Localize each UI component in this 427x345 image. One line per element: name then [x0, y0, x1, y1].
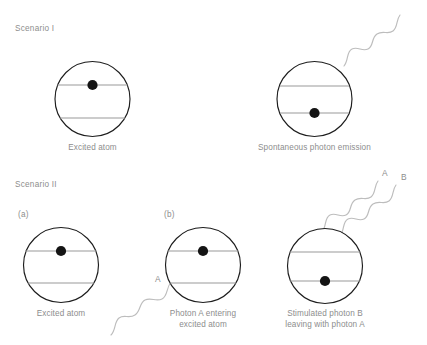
- electron-dot: [198, 246, 208, 256]
- scenario-1-panel-1: Excited atom: [55, 62, 130, 153]
- atom-circle: [55, 62, 130, 137]
- figure-canvas: Scenario I Excited atom Spontaneous phot…: [0, 0, 427, 345]
- panel-caption-line-1: Photon A entering: [170, 309, 237, 318]
- scenario-2-panel-b: (b) A Photon A entering excited atom: [111, 210, 241, 335]
- photon-b-label: B: [401, 172, 407, 182]
- panel-caption-line-1: Stimulated photon B: [287, 309, 363, 318]
- scenario-2-panel-c: A B Stimulated photon B leaving with pho…: [285, 168, 407, 329]
- stimulated-emission-diagram: Scenario I Excited atom Spontaneous phot…: [0, 0, 427, 345]
- atom-circle: [24, 228, 99, 303]
- photon-a-label: A: [155, 274, 161, 284]
- photon-wave-icon: [340, 185, 396, 236]
- photon-wave-icon: [111, 282, 171, 335]
- panel-caption: Excited atom: [37, 309, 86, 318]
- electron-dot: [87, 80, 97, 90]
- panel-letter-b: (b): [164, 210, 175, 219]
- photon-wave-icon: [344, 15, 400, 66]
- electron-dot: [56, 246, 66, 256]
- photon-a-label: A: [382, 168, 388, 178]
- panel-caption: Excited atom: [68, 143, 117, 152]
- scenario-1-heading: Scenario I: [15, 24, 54, 33]
- scenario-2-panel-a: (a) Excited atom: [18, 210, 99, 318]
- photon-wave-icon: [322, 181, 378, 232]
- panel-letter-a: (a): [18, 210, 29, 219]
- atom-circle: [277, 62, 352, 137]
- scenario-2-heading: Scenario II: [15, 180, 57, 189]
- panel-caption-line-2: excited atom: [179, 320, 227, 329]
- electron-dot: [320, 276, 330, 286]
- panel-caption-line-2: leaving with photon A: [285, 320, 365, 329]
- scenario-1-panel-2: Spontaneous photon emission: [258, 15, 400, 152]
- atom-circle: [166, 228, 241, 303]
- atom-circle: [288, 229, 363, 304]
- electron-dot: [309, 108, 319, 118]
- panel-caption: Spontaneous photon emission: [258, 143, 371, 152]
